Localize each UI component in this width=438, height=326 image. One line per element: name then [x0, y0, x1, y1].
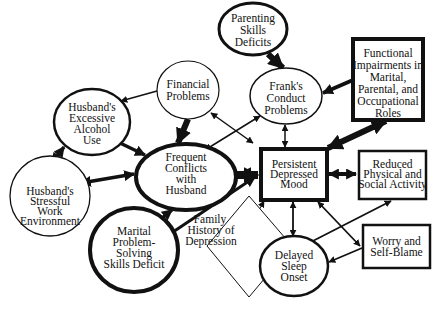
- node-delayed-sleep-onset: Delayed Sleep Onset: [260, 236, 328, 296]
- node-label-line: Frank's: [269, 80, 303, 92]
- node-label-line: Depression: [185, 235, 237, 248]
- node-label-line: Skills: [240, 24, 267, 36]
- node-financial-problems: Financial Problems: [157, 61, 219, 119]
- node-label-line: Roles: [375, 107, 402, 119]
- node-label-line: Self-Blame: [370, 246, 422, 258]
- node-label-line: Conduct: [267, 92, 307, 104]
- node-reduced-physical-social-activity: Reduced Physical and Social Activity: [358, 151, 427, 199]
- node-worry-and-self-blame: Worry and Self-Blame: [363, 225, 430, 268]
- edge-conflicts-franks: [205, 116, 260, 150]
- node-frequent-conflicts-with-husband: Frequent Conflicts with Husband: [136, 144, 236, 210]
- node-label-line: Use: [83, 134, 101, 146]
- node-husbands-excessive-alcohol-use: Husband's Excessive Alcohol Use: [54, 89, 130, 155]
- node-label-line: Onset: [281, 271, 309, 283]
- edge-mood-functional: [328, 121, 386, 148]
- case-formulation-diagram: Parenting Skills Deficits Frank's Conduc…: [0, 0, 438, 326]
- edge-mood-worry: [318, 202, 360, 246]
- node-label-line: Environment: [20, 215, 81, 227]
- node-franks-conduct-problems: Frank's Conduct Problems: [250, 68, 322, 124]
- edge-financial-mood: [211, 113, 253, 143]
- node-label-line: Functional: [363, 47, 412, 59]
- node-label-line: Financial: [167, 78, 210, 90]
- node-parenting-skills-deficits: Parenting Skills Deficits: [219, 3, 287, 55]
- edge-parenting-franks: [268, 54, 283, 68]
- edge-alcohol-conflicts: [120, 143, 145, 155]
- edge-worry-sleep: [329, 248, 362, 262]
- node-label-line: Problems: [264, 104, 308, 116]
- node-label-line: Mood: [280, 178, 308, 190]
- node-functional-impairments: Functional Impairments in Marital, Paren…: [353, 39, 423, 120]
- edge-stressful-conflicts: [81, 174, 134, 183]
- node-label-line: Husband: [166, 184, 207, 196]
- edge-financial-conflicts: [178, 119, 188, 143]
- node-label-line: Social Activity: [358, 178, 427, 191]
- edge-functional-franks: [323, 80, 353, 93]
- node-label-line: Deficits: [235, 36, 272, 48]
- node-marital-problem-solving-skills-deficit: Marital Problem- Solving Skills Deficit: [90, 208, 178, 292]
- node-husbands-stressful-work-environment: Husband's Stressful Work Environment: [10, 156, 90, 236]
- node-persistent-depressed-mood: Persistent Depressed Mood: [261, 149, 327, 200]
- edge-financial-alcohol: [121, 91, 157, 101]
- node-label-line: Skills Deficit: [103, 258, 165, 270]
- node-label-line: Problems: [166, 90, 210, 102]
